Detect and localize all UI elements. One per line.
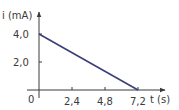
y-tick-label: 2,0	[13, 57, 29, 68]
chart: i (mA) 4,0 2,0 0 2,4 4,8 7,2 t (s)	[0, 0, 179, 110]
y-axis-label: i (mA)	[2, 10, 32, 21]
data-line	[39, 34, 138, 90]
x-tick-label: 2,4	[64, 96, 80, 107]
origin-label: 0	[28, 94, 34, 105]
x-tick-label: 7,2	[130, 96, 146, 107]
y-tick-label: 4,0	[13, 29, 29, 40]
x-axis-label: t (s)	[150, 94, 170, 105]
x-tick-label: 4,8	[97, 96, 113, 107]
